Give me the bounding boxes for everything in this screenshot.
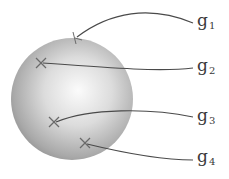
label-g2: g2 [197,57,215,76]
sphere [11,38,133,160]
sphere-diagram [0,0,229,179]
label-g1: g1 [197,12,215,31]
label-g2-base: g [197,55,208,75]
label-g4: g4 [197,148,215,167]
label-g4-sub: 4 [209,156,215,167]
label-g1-base: g [197,10,208,30]
label-g2-sub: 2 [209,65,215,76]
label-g3-sub: 3 [209,115,215,126]
label-g3: g3 [197,107,215,126]
label-g1-sub: 1 [209,20,215,31]
label-g4-base: g [197,146,208,166]
curve-g1 [77,13,193,37]
label-g3-base: g [197,105,208,125]
